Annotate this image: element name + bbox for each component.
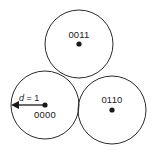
label-circle-0110: 0110 [101,94,122,105]
center-dot-0011 [76,41,81,46]
label-circle-0000: 0000 [34,109,56,120]
circle-packing-figure: 0011 0000 0110 d = 1 [0,0,159,156]
label-circle-0011: 0011 [68,29,89,40]
radius-arrow-head-icon [11,101,19,109]
dimension-equals: = [24,93,34,103]
dimension-value: 1 [34,93,39,103]
dimension-label: d = 1 [19,93,39,103]
figure-canvas: 0011 0000 0110 d = 1 [0,0,159,156]
center-dot-0110 [109,107,114,112]
